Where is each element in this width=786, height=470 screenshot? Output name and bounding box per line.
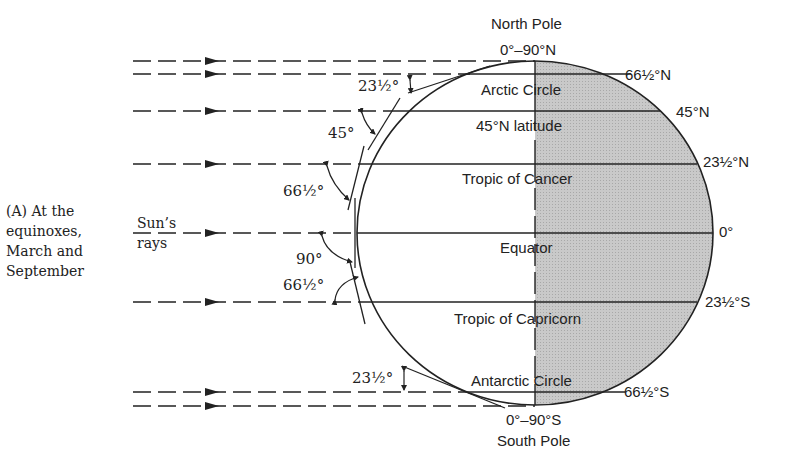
sun-rays-label-line2: rays	[137, 236, 167, 250]
caption-line-1: (A) At the	[6, 201, 84, 221]
north-pole-label: North Pole	[491, 16, 562, 31]
lat-0: 0°	[719, 224, 733, 239]
lat-66-5n: 66½°N	[625, 67, 671, 82]
sun-rays-label-line1: Sun’s	[137, 216, 176, 230]
tropic-of-cancer-label: Tropic of Cancer	[462, 171, 572, 186]
angle-label-90: 90°	[296, 252, 323, 267]
caption-line-3: March and	[6, 241, 84, 261]
angle-label-23-5-south: 23½°	[352, 371, 393, 386]
antarctic-circle-label: Antarctic Circle	[471, 373, 572, 388]
equator-label: Equator	[500, 240, 553, 255]
45n-latitude-label: 45°N latitude	[476, 118, 562, 133]
north-pole-coord: 0°–90°N	[500, 42, 556, 57]
angle-label-45: 45°	[328, 126, 355, 141]
figure-caption: (A) At the equinoxes, March and Septembe…	[6, 201, 84, 281]
lat-23-5s: 23½°S	[705, 294, 750, 309]
angle-label-66-5-north: 66½°	[283, 184, 324, 199]
lat-23-5n: 23½°N	[703, 154, 749, 169]
ray-arrowheads	[205, 57, 219, 410]
lat-66-5s: 66½°S	[624, 384, 669, 399]
south-pole-coord: 0°–90°S	[506, 412, 561, 427]
angle-label-66-5-south: 66½°	[283, 278, 324, 293]
caption-line-2: equinoxes,	[6, 221, 84, 241]
caption-line-4: September	[6, 261, 84, 281]
angle-label-23-5-north: 23½°	[358, 79, 399, 94]
lat-45n: 45°N	[676, 104, 710, 119]
arctic-circle-label: Arctic Circle	[481, 82, 561, 97]
south-pole-label: South Pole	[497, 433, 570, 448]
tropic-of-capricorn-label: Tropic of Capricorn	[454, 311, 581, 326]
